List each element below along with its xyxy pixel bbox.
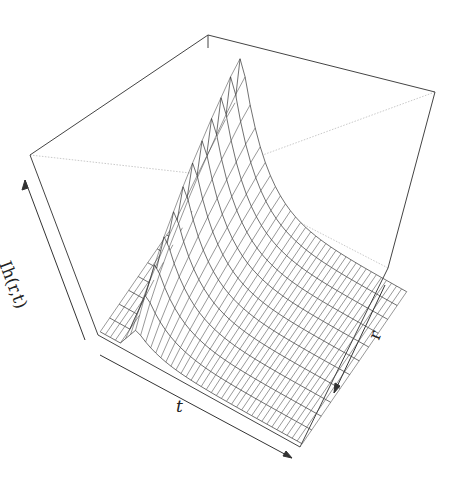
- surface-plot: [0, 0, 455, 479]
- t-axis-label: t: [176, 396, 183, 416]
- wireframe-surface: [100, 59, 407, 444]
- z-axis-arrow: [25, 180, 85, 340]
- t-axis-arrow: [100, 355, 292, 458]
